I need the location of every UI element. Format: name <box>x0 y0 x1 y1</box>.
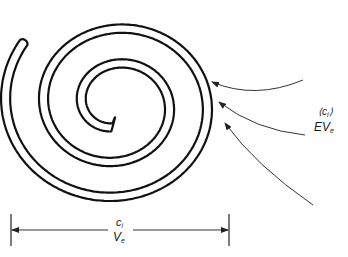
spiral-diagram <box>0 0 348 257</box>
arrow-label-ev: EVe <box>314 121 334 134</box>
inflow-arrow-1 <box>212 80 303 91</box>
inflow-arrow-2 <box>219 102 305 135</box>
dimension-label-ci: ci <box>116 217 123 229</box>
arrow-label-ci-mean: ⟨ci⟩ <box>318 107 333 118</box>
inflow-arrow-3 <box>225 123 313 205</box>
spiral-band <box>1 24 212 201</box>
dimension-label-ve: Ve <box>113 231 125 244</box>
